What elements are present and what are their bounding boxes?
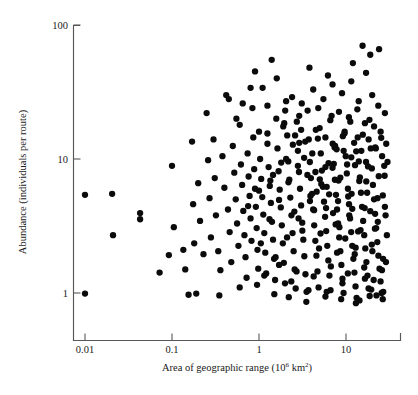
data-point — [257, 156, 263, 162]
data-point — [328, 263, 334, 269]
data-point — [326, 272, 332, 278]
data-point — [137, 210, 143, 216]
data-point — [330, 210, 336, 216]
data-point — [346, 212, 352, 218]
y-axis-tick-labels: 110100 — [52, 20, 68, 299]
data-point — [271, 291, 277, 297]
data-point — [244, 150, 250, 156]
data-point — [382, 110, 388, 116]
data-point — [369, 241, 375, 247]
data-point — [362, 205, 368, 211]
data-point — [226, 96, 232, 102]
data-point — [254, 282, 260, 288]
data-point — [342, 235, 348, 241]
data-point — [344, 161, 350, 167]
data-point — [166, 252, 172, 258]
data-point — [320, 96, 326, 102]
data-point — [338, 296, 344, 302]
data-point — [295, 148, 301, 154]
data-point — [272, 254, 278, 260]
data-point — [374, 195, 380, 201]
data-point — [200, 251, 206, 257]
data-point — [219, 153, 225, 159]
data-point — [333, 192, 339, 198]
data-point — [381, 173, 387, 179]
data-point — [254, 247, 260, 253]
data-point — [169, 163, 175, 169]
y-tick-label: 1 — [63, 288, 68, 299]
data-point — [248, 238, 254, 244]
data-point — [259, 85, 265, 91]
data-point — [284, 132, 290, 138]
data-point — [340, 290, 346, 296]
data-point — [317, 230, 323, 236]
data-point — [376, 173, 382, 179]
data-point — [312, 169, 318, 175]
data-point — [349, 206, 355, 212]
data-point — [246, 193, 252, 199]
data-point — [300, 237, 306, 243]
data-point — [217, 267, 223, 273]
data-point — [255, 265, 261, 271]
data-point — [231, 170, 237, 176]
data-point — [340, 133, 346, 139]
data-point — [372, 226, 378, 232]
x-axis-title-main: Area of geographic range (10 — [162, 362, 286, 374]
data-point — [270, 237, 276, 243]
data-point — [303, 299, 309, 305]
x-axis-line — [74, 334, 401, 341]
data-point — [279, 222, 285, 228]
data-point — [315, 105, 321, 111]
data-point — [325, 72, 331, 78]
data-point — [249, 105, 255, 111]
data-point — [336, 234, 342, 240]
data-point — [261, 272, 267, 278]
data-point — [190, 201, 196, 207]
data-point — [323, 205, 329, 211]
data-point — [318, 150, 324, 156]
data-point — [283, 156, 289, 162]
data-point — [367, 293, 373, 299]
data-point — [289, 230, 295, 236]
data-point — [325, 160, 331, 166]
data-point — [322, 214, 328, 220]
data-point — [302, 271, 308, 277]
data-points-layer — [82, 43, 391, 307]
data-point — [370, 182, 376, 188]
data-point — [313, 127, 319, 133]
data-point — [247, 215, 253, 221]
data-point — [311, 207, 317, 213]
data-point — [315, 284, 321, 290]
data-point — [216, 292, 222, 298]
data-point — [185, 292, 191, 298]
data-point — [327, 117, 333, 123]
data-point — [339, 90, 345, 96]
data-point — [384, 232, 390, 238]
data-point — [380, 296, 386, 302]
data-point — [352, 162, 358, 168]
data-point — [221, 185, 227, 191]
data-point — [296, 169, 302, 175]
data-point — [336, 109, 342, 115]
y-tick-label: 100 — [52, 20, 68, 31]
y-axis-title: Abundance (individuals per route) — [17, 109, 29, 254]
x-axis-title: Area of geographic range (106 km2) — [162, 361, 313, 374]
data-point — [239, 182, 245, 188]
data-point — [356, 98, 362, 104]
data-point — [237, 284, 243, 290]
data-point — [293, 285, 299, 291]
data-point — [285, 179, 291, 185]
data-point — [323, 228, 329, 234]
data-point — [337, 175, 343, 181]
data-point — [234, 220, 240, 226]
data-point — [273, 116, 279, 122]
data-point — [261, 230, 267, 236]
data-point — [260, 211, 266, 217]
data-point — [283, 98, 289, 104]
data-point — [372, 144, 378, 150]
data-point — [264, 141, 270, 147]
data-point — [317, 176, 323, 182]
data-point — [344, 170, 350, 176]
data-point — [324, 243, 330, 249]
data-point — [212, 175, 218, 181]
